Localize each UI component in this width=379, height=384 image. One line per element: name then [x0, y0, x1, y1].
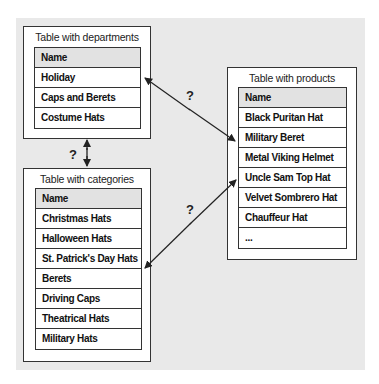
relation-label-dept-prod: ? — [186, 88, 194, 103]
relation-label-cat-prod: ? — [186, 202, 194, 217]
relation-label-dept-cat: ? — [69, 147, 77, 162]
departments-products-arrow — [145, 78, 190, 110]
categories-products-arrow — [190, 180, 236, 224]
relation-arrows — [0, 0, 379, 384]
